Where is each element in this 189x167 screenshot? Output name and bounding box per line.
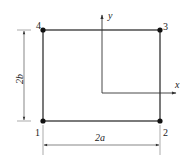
element-rectangle bbox=[43, 30, 160, 121]
node-3 bbox=[157, 27, 162, 32]
node-2 bbox=[157, 118, 162, 123]
diagram-svg: 1 2 3 4 y x 2a 2b bbox=[0, 0, 189, 167]
node-1-label: 1 bbox=[35, 127, 40, 138]
node-3-label: 3 bbox=[163, 21, 168, 32]
element-diagram: 1 2 3 4 y x 2a 2b bbox=[0, 0, 189, 167]
node-1 bbox=[40, 118, 45, 123]
node-2-label: 2 bbox=[163, 127, 168, 138]
y-axis-label: y bbox=[107, 10, 113, 21]
x-axis-label: x bbox=[174, 79, 180, 90]
height-label: 2b bbox=[14, 74, 25, 84]
node-4 bbox=[40, 27, 45, 32]
width-label: 2a bbox=[95, 132, 105, 143]
node-4-label: 4 bbox=[36, 20, 41, 31]
